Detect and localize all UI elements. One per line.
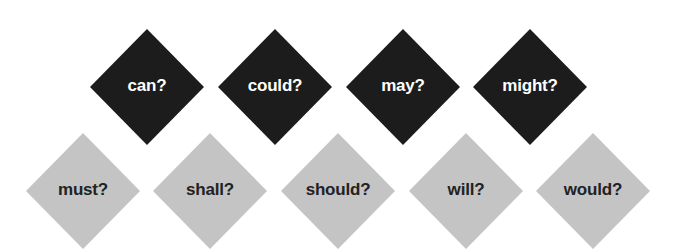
diamond-must: must? [26, 133, 140, 249]
diamond-label: may? [381, 76, 425, 96]
diamond-can: can? [90, 29, 204, 145]
diamond-should: should? [281, 133, 395, 249]
diamond-label: would? [564, 180, 622, 200]
diamond-label: should? [306, 180, 371, 200]
diamond-label: might? [502, 76, 557, 96]
diamond-may: may? [346, 29, 460, 145]
diamond-would: would? [536, 133, 650, 249]
diamond-label: could? [248, 76, 303, 96]
diamond-label: must? [58, 180, 108, 200]
diamond-shall: shall? [153, 133, 267, 249]
diamond-could: could? [218, 29, 332, 145]
diamond-will: will? [409, 133, 523, 249]
diamond-might: might? [473, 29, 587, 145]
diamond-label: can? [128, 76, 167, 96]
diamond-label: shall? [186, 180, 234, 200]
diamond-label: will? [448, 180, 485, 200]
